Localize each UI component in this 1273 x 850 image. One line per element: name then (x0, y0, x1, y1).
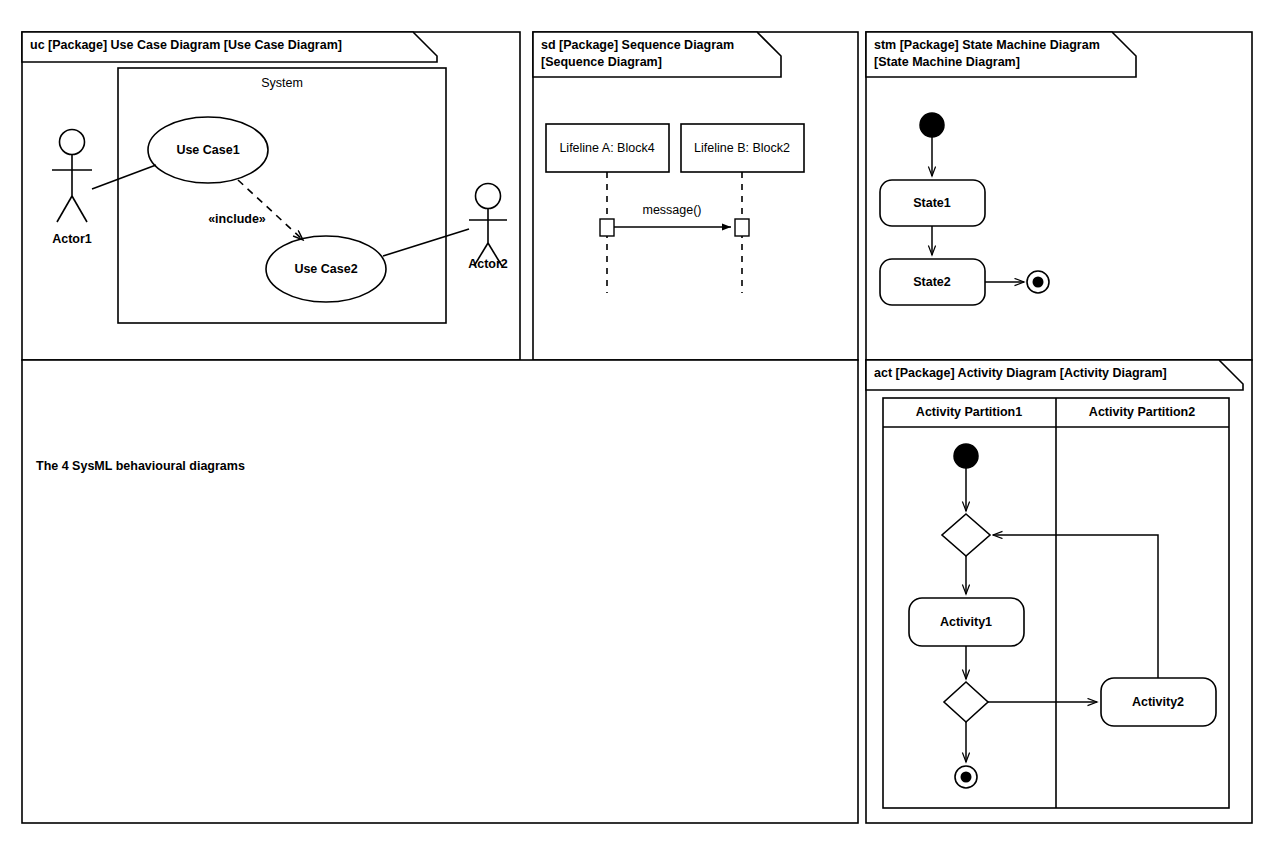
actor2-label: Actor2 (468, 257, 508, 271)
execution-occurrence-b (735, 219, 749, 236)
diagram-canvas: uc [Package] Use Case Diagram [Use Case … (0, 0, 1273, 850)
stm-initial-node (920, 113, 944, 137)
sequence-diagram-frame (533, 32, 858, 360)
use-case-1-label: Use Case1 (176, 143, 239, 157)
activity-initial-node (954, 444, 978, 468)
state2-label: State2 (913, 275, 951, 289)
include-stereotype-label: «include» (208, 212, 266, 226)
execution-occurrence-a (600, 219, 614, 236)
message-label: message() (642, 203, 701, 217)
lifeline-a-label: Lifeline A: Block4 (559, 141, 654, 155)
diagram-caption: The 4 SysML behavioural diagrams (36, 459, 245, 473)
system-boundary-label: System (261, 76, 303, 90)
diagram-vector-layer (0, 0, 1273, 850)
lifeline-b-label: Lifeline B: Block2 (694, 141, 790, 155)
activity-final-node (955, 766, 977, 788)
activity2-label: Activity2 (1132, 695, 1184, 709)
caption-frame (22, 360, 858, 823)
activity-partition-2-label: Activity Partition2 (1089, 405, 1195, 419)
activity-partition-1-label: Activity Partition1 (916, 405, 1022, 419)
use-case-2-label: Use Case2 (294, 262, 357, 276)
activity1-label: Activity1 (940, 615, 992, 629)
state1-label: State1 (913, 196, 951, 210)
stm-final-node (1027, 271, 1049, 293)
actor1-label: Actor1 (52, 232, 92, 246)
activity-diagram-frame (866, 360, 1252, 823)
